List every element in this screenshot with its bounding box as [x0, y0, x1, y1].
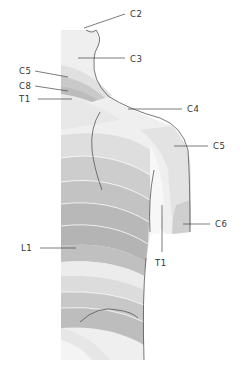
label-t1-arm: T1: [154, 258, 167, 268]
torso-shading: [61, 30, 191, 360]
label-t1-left: T1: [18, 94, 31, 104]
label-c6: C6: [215, 219, 227, 229]
label-c5-right: C5: [213, 141, 225, 151]
label-c2: C2: [130, 9, 142, 19]
label-c8: C8: [19, 81, 31, 91]
dermatome-diagram: C2 C3 C5 C8 T1 C4 C5 C6 T1 L1: [0, 0, 243, 372]
label-c3: C3: [130, 54, 142, 64]
label-c4: C4: [187, 104, 199, 114]
label-c5-left: C5: [19, 66, 31, 76]
label-l1: L1: [21, 243, 32, 253]
